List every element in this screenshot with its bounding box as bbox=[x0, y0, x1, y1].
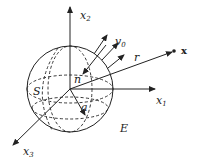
x3-label: x3 bbox=[23, 145, 34, 159]
point-x-label: x bbox=[181, 45, 188, 56]
radius-label: a bbox=[81, 101, 88, 114]
exterior-label: E bbox=[119, 122, 128, 135]
lower-latitude-back bbox=[32, 97, 108, 108]
x1-label: x1 bbox=[156, 94, 167, 108]
normal-label: n bbox=[74, 73, 81, 86]
velocity-label: v0 bbox=[115, 35, 126, 49]
velocity-arrow-3 bbox=[108, 55, 124, 68]
field-point bbox=[172, 49, 176, 53]
sphere-radiation-diagram: x2 x1 x3 v0 r x n a S E bbox=[0, 0, 198, 164]
r-label: r bbox=[134, 51, 140, 64]
surface-label: S bbox=[33, 85, 41, 98]
x2-label: x2 bbox=[80, 9, 91, 23]
lower-latitude-front bbox=[32, 108, 108, 119]
x3-axis bbox=[13, 89, 70, 145]
